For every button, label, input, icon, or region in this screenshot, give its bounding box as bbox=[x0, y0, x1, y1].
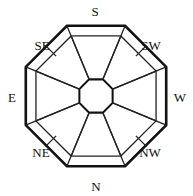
band-divider-6 bbox=[121, 26, 125, 36]
band-divider-3 bbox=[26, 121, 36, 125]
direction-label-nw: NW bbox=[139, 146, 161, 159]
ordinal-spoke-2 bbox=[71, 113, 89, 156]
compass-rose-diagram: S SW W NW N NE E SE bbox=[0, 0, 193, 196]
direction-label-s: S bbox=[91, 5, 98, 18]
ordinal-spoke-b-6 bbox=[113, 71, 156, 89]
compass-rose-svg bbox=[0, 0, 193, 196]
direction-label-sw: SW bbox=[141, 39, 161, 52]
ordinal-spoke-6 bbox=[103, 36, 121, 79]
direction-label-n: N bbox=[91, 180, 100, 193]
direction-label-w: W bbox=[174, 91, 186, 104]
direction-label-e: E bbox=[8, 91, 16, 104]
ordinal-spoke-4 bbox=[36, 71, 79, 89]
core-octagon bbox=[79, 79, 112, 112]
cardinal-wedge-side-7b bbox=[113, 103, 156, 121]
band-divider-0 bbox=[156, 121, 166, 125]
band-divider-5 bbox=[67, 26, 71, 36]
ordinal-spoke-b-2 bbox=[36, 103, 79, 121]
ordinal-spoke-b-0 bbox=[103, 113, 121, 156]
direction-label-ne: NE bbox=[32, 146, 49, 159]
ordinal-spoke-b-4 bbox=[71, 36, 89, 79]
band-divider-7 bbox=[156, 67, 166, 71]
direction-label-se: SE bbox=[34, 39, 49, 52]
band-divider-1 bbox=[121, 156, 125, 166]
band-divider-4 bbox=[26, 67, 36, 71]
band-divider-2 bbox=[67, 156, 71, 166]
